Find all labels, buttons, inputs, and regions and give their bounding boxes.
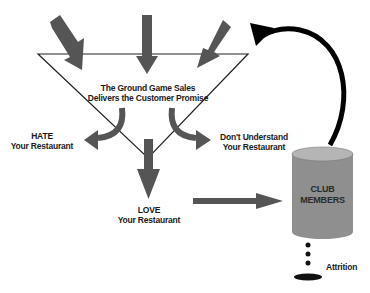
curved-arrow-dont-understand (172, 108, 211, 150)
outcome-hate-line1: HATE (4, 131, 80, 141)
club-members-line1: CLUB (292, 184, 353, 195)
outcome-dont-understand-line1: Don't Understand (214, 132, 294, 142)
outcome-hate: HATE Your Restaurant (4, 131, 80, 151)
outcome-love-line2: Your Restaurant (112, 215, 186, 225)
outcome-love: LOVE Your Restaurant (112, 205, 186, 225)
outcome-dont-understand-line2: Your Restaurant (214, 142, 294, 152)
attrition-label: Attrition (326, 262, 362, 272)
outcome-love-line1: LOVE (112, 205, 186, 215)
input-arrow-center (136, 15, 158, 74)
curved-arrow-hate (84, 108, 122, 150)
input-arrow-right (197, 20, 231, 68)
attrition-dots (306, 243, 311, 266)
attrition-text: Attrition (326, 262, 362, 272)
outcome-dont-understand: Don't Understand Your Restaurant (214, 132, 294, 152)
center-text-line1: The Ground Game Sales (86, 83, 210, 93)
club-members-line2: MEMBERS (292, 195, 353, 206)
outcome-hate-line2: Your Restaurant (4, 141, 80, 151)
arrow-love-to-club (193, 193, 283, 209)
down-arrow-love (137, 139, 160, 199)
center-text: The Ground Game Sales Delivers the Custo… (86, 83, 210, 103)
feedback-arrow (250, 23, 344, 145)
club-members-label: CLUB MEMBERS (292, 184, 353, 206)
input-arrow-left (50, 15, 84, 70)
attrition-puddle (294, 274, 322, 281)
center-text-line2: Delivers the Customer Promise (86, 93, 210, 103)
